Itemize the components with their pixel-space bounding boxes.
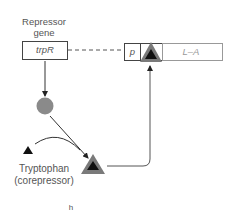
genes-label: L–A (163, 46, 219, 57)
repressor-gene-label: Repressor gene (14, 16, 74, 38)
tryptophan-icon (23, 146, 33, 154)
promoter-label: p (124, 46, 141, 57)
corepressor-label: Tryptophan (corepressor) (2, 163, 86, 187)
corepressor-label-line2: (corepressor) (2, 175, 86, 187)
repressor-gene-label-line1: Repressor (14, 16, 74, 27)
arrow-complex-to-operator (107, 66, 150, 166)
repressor-protein-icon (37, 98, 54, 115)
arrow-tryptophan-to-complex (35, 137, 80, 150)
trpR-label: trpR (22, 44, 68, 55)
corepressor-label-line1: Tryptophan (2, 163, 86, 175)
repressor-gene-label-line2: gene (14, 27, 74, 38)
stray-glyph: h (66, 202, 76, 213)
